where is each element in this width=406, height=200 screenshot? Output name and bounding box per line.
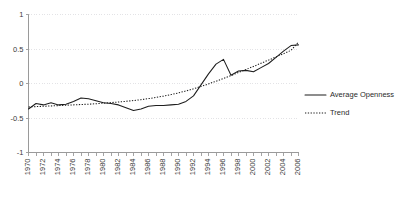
x-tick-label: 2002: [263, 159, 272, 176]
x-tick-label: 1984: [128, 159, 137, 176]
series-line-trend: [29, 42, 299, 107]
chart-legend: Average OpennessTrend: [305, 90, 394, 117]
x-tick-label: 1972: [38, 159, 47, 176]
x-tick-label: 1988: [158, 159, 167, 176]
x-tick-label: 1976: [68, 159, 77, 176]
data-series: [29, 42, 299, 110]
x-tick-labels: 1970197219741976197819801982198419861988…: [23, 159, 302, 176]
series-line-average-openness: [29, 45, 299, 111]
legend-label-average-openness: Average Openness: [330, 90, 394, 99]
x-tick-label: 2000: [248, 159, 257, 176]
y-tick-label: -1: [17, 148, 24, 157]
x-tick-label: 2006: [293, 159, 302, 176]
x-tick-label: 2004: [278, 159, 287, 176]
x-tick-label: 1990: [173, 159, 182, 176]
x-axis: [29, 153, 299, 156]
x-tick-label: 1992: [188, 159, 197, 176]
x-tick-label: 1974: [53, 159, 62, 176]
x-tick-label: 1986: [143, 159, 152, 176]
x-tick-label: 1996: [218, 159, 227, 176]
x-tick-label: 1998: [233, 159, 242, 176]
y-tick-label: -0.5: [11, 114, 24, 123]
gridlines: [29, 15, 299, 153]
x-tick-label: 1978: [83, 159, 92, 176]
x-tick-label: 1980: [98, 159, 107, 176]
y-tick-labels: 10.50-0.5-1: [11, 10, 24, 157]
x-tick-label: 1994: [203, 159, 212, 176]
chart-container: 10.50-0.5-1 1970197219741976197819801982…: [0, 0, 406, 200]
y-tick-label: 0: [19, 79, 23, 88]
x-tick-label: 1970: [23, 159, 32, 176]
legend-label-trend: Trend: [330, 108, 349, 117]
y-tick-label: 0.5: [13, 45, 23, 54]
y-axis: [26, 15, 29, 153]
y-tick-label: 1: [19, 10, 23, 19]
line-chart: 10.50-0.5-1 1970197219741976197819801982…: [0, 0, 406, 200]
x-tick-label: 1982: [113, 159, 122, 176]
